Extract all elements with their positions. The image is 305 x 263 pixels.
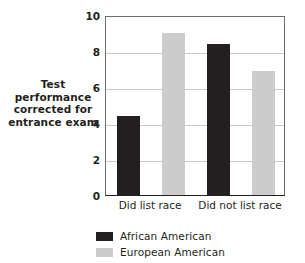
- y-tick-8: 8: [78, 47, 100, 58]
- bar-chart-figure: Test performance corrected for entrance …: [0, 0, 305, 263]
- bar-african-american-group-2: [207, 44, 230, 195]
- y-tick-2: 2: [78, 155, 100, 166]
- legend-item-1: African American: [96, 229, 225, 243]
- legend: African AmericanEuropean American: [96, 229, 225, 261]
- light-swatch: [96, 248, 113, 257]
- dark-swatch: [96, 232, 113, 241]
- bar-african-american-group-1: [117, 116, 140, 195]
- x-tick-label-2: Did not list race: [180, 200, 300, 212]
- y-tick-4: 4: [78, 119, 100, 130]
- legend-item-2: European American: [96, 245, 225, 259]
- legend-label-1: African American: [120, 230, 212, 242]
- bar-european-american-group-2: [252, 71, 275, 195]
- y-tick-6: 6: [78, 83, 100, 94]
- gridline-8: [106, 53, 284, 54]
- legend-label-2: European American: [120, 246, 225, 258]
- plot-area: [105, 16, 285, 196]
- bar-european-american-group-1: [162, 33, 185, 195]
- y-axis-label-line-3: corrected for: [6, 103, 100, 116]
- y-tick-10: 10: [78, 11, 100, 22]
